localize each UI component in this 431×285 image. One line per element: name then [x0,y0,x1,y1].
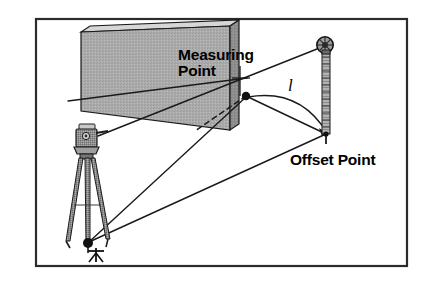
measuring-point-label: Measuring Point [178,47,254,80]
offset-point-tip-icon [323,131,328,136]
diagram-canvas: Measuring Point Offset Point l [0,0,431,285]
offset-measurement-illustration [0,0,431,285]
offset-point-label: Offset Point [290,152,375,168]
offset-length-symbol: l [288,76,293,96]
prism-reflector-icon [317,37,333,54]
